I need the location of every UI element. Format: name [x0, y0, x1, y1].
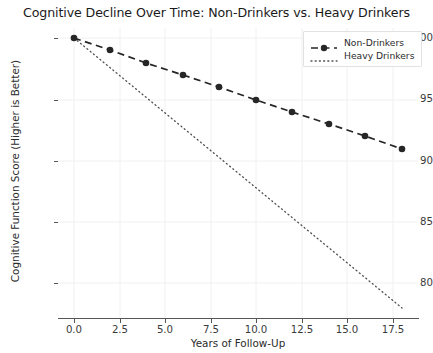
chart-legend: Non-Drinkers Heavy Drinkers	[303, 31, 422, 67]
data-series-layer	[58, 28, 418, 318]
x-axis-spine	[58, 318, 419, 319]
x-tick-label-10: 10.0	[233, 324, 279, 335]
chart-title: Cognitive Decline Over Time: Non-Drinker…	[0, 5, 433, 20]
y-axis-label: Cognitive Function Score (Higher is Bett…	[9, 21, 21, 321]
x-tick-mark-12-5	[302, 319, 303, 323]
x-tick-mark-17-5	[393, 319, 394, 323]
x-tick-label-15: 15.0	[324, 324, 370, 335]
x-tick-label-17-5: 17.5	[370, 324, 416, 335]
legend-item-non-drinkers[interactable]: Non-Drinkers	[310, 36, 414, 49]
x-tick-label-2-5: 2.5	[97, 324, 143, 335]
x-tick-label-7-5: 7.5	[188, 324, 234, 335]
legend-swatch-heavy-drinkers	[310, 51, 338, 61]
x-tick-mark-0	[74, 319, 75, 323]
x-tick-mark-5	[165, 319, 166, 323]
x-tick-mark-2-5	[120, 319, 121, 323]
x-tick-mark-15	[347, 319, 348, 323]
legend-item-heavy-drinkers[interactable]: Heavy Drinkers	[310, 49, 414, 62]
x-axis-label: Years of Follow-Up	[58, 337, 418, 349]
legend-swatch-non-drinkers	[310, 38, 338, 48]
series-line-heavy-drinkers	[74, 38, 402, 308]
x-tick-label-12-5: 12.5	[279, 324, 325, 335]
x-tick-mark-7-5	[211, 319, 212, 323]
legend-label-non-drinkers: Non-Drinkers	[344, 37, 404, 48]
x-tick-mark-10	[256, 319, 257, 323]
x-tick-label-0: 0.0	[51, 324, 97, 335]
legend-label-heavy-drinkers: Heavy Drinkers	[344, 50, 414, 61]
plot-area	[58, 28, 418, 318]
chart-figure: Cognitive Decline Over Time: Non-Drinker…	[0, 0, 433, 353]
x-tick-label-5: 5.0	[142, 324, 188, 335]
